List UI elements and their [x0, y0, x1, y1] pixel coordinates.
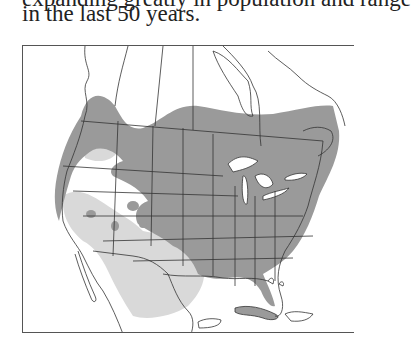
range-map-svg	[23, 46, 354, 333]
caption-text: in the last 50 years.	[22, 2, 200, 25]
range-map	[22, 45, 354, 333]
